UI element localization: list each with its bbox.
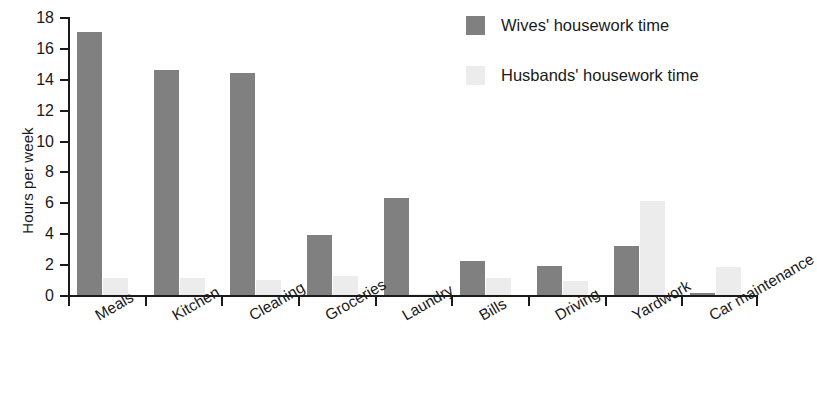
legend: Wives' housework time Husbands' housewor… [466,8,699,92]
y-tick-label: 8 [45,163,54,181]
x-axis-label: Bills [476,295,510,325]
x-tick-1 [145,297,147,306]
husbands-swatch-icon [466,66,485,85]
y-axis-line [68,17,70,296]
y-tick-label: 12 [36,102,54,120]
y-tick-label: 0 [45,287,54,305]
bar-husbands [640,201,665,295]
bar-wives [460,261,485,295]
y-tick-8: 8 [60,171,68,173]
y-tick-label: 4 [45,225,54,243]
y-tick-6: 6 [60,202,68,204]
legend-label-husbands: Husbands' housework time [501,66,699,85]
bar-wives [154,70,179,295]
bar-wives [384,198,409,295]
y-tick-4: 4 [60,233,68,235]
legend-item-husbands: Husbands' housework time [466,58,699,92]
y-tick-0: 0 [60,295,68,297]
y-tick-18: 18 [60,17,68,19]
wives-swatch-icon [466,16,485,35]
bar-wives [537,266,562,295]
y-tick-2: 2 [60,264,68,266]
y-tick-14: 14 [60,79,68,81]
y-tick-label: 2 [45,256,54,274]
y-tick-label: 18 [36,9,54,27]
bar-group [154,17,205,295]
bar-wives [614,246,639,295]
y-tick-10: 10 [60,141,68,143]
y-tick-label: 6 [45,194,54,212]
legend-item-wives: Wives' housework time [466,8,699,42]
y-axis-title: Hours per week [19,86,36,276]
bar-wives [230,73,255,295]
bar-wives [690,293,715,295]
y-tick-12: 12 [60,110,68,112]
legend-label-wives: Wives' housework time [501,16,669,35]
bar-group [384,17,435,295]
bar-husbands [486,278,511,295]
y-tick-label: 16 [36,40,54,58]
bar-group [77,17,128,295]
bar-wives [77,32,102,295]
x-tick-7 [605,297,607,306]
bar-group [230,17,281,295]
y-tick-16: 16 [60,48,68,50]
bar-group [307,17,358,295]
x-tick-0 [68,297,70,306]
x-tick-6 [528,297,530,306]
y-tick-label: 10 [36,133,54,151]
y-tick-label: 14 [36,71,54,89]
bar-wives [307,235,332,295]
